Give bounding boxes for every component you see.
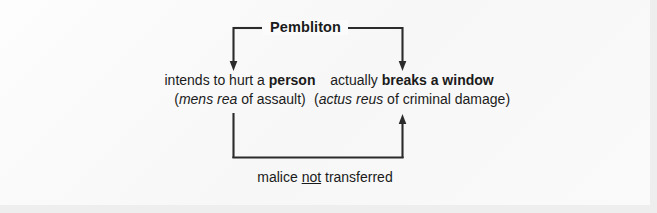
branch-mens-rea-line1: intends to hurt a person bbox=[150, 72, 330, 88]
caption-underlined-word: not bbox=[302, 169, 321, 185]
branch-actus-reus: actually breaks a window (actus reus of … bbox=[307, 72, 517, 107]
arrow-down-icon-left bbox=[230, 61, 238, 71]
arrow-up-icon-return bbox=[399, 114, 407, 124]
branch-actus-reus-line1: actually breaks a window bbox=[307, 72, 517, 88]
branch-actus-reus-line2: (actus reus of criminal damage) bbox=[307, 91, 517, 107]
branch-mens-rea-line1-prefix: intends to hurt a bbox=[165, 72, 269, 88]
diagram-caption: malice not transferred bbox=[0, 170, 650, 185]
branch-actus-reus-line1-prefix: actually bbox=[330, 72, 381, 88]
caption-suffix: transferred bbox=[321, 169, 393, 185]
caption-prefix: malice bbox=[257, 169, 301, 185]
branch-mens-rea-line2-rest: of assault) bbox=[237, 91, 305, 107]
branch-mens-rea-latin-term: mens rea bbox=[179, 91, 237, 107]
branch-actus-reus-line1-emphasis: breaks a window bbox=[382, 72, 494, 88]
arrow-down-icon-right bbox=[399, 61, 407, 71]
figure-canvas: Pembliton intends to hurt a person (mens… bbox=[0, 0, 650, 205]
branch-mens-rea: intends to hurt a person (mens rea of as… bbox=[150, 72, 330, 107]
branch-mens-rea-line2: (mens rea of assault) bbox=[150, 91, 330, 107]
branch-actus-reus-latin-term: actus reus bbox=[319, 91, 384, 107]
branch-actus-reus-line2-rest: of criminal damage) bbox=[383, 91, 510, 107]
diagram-title: Pembliton bbox=[263, 20, 348, 35]
